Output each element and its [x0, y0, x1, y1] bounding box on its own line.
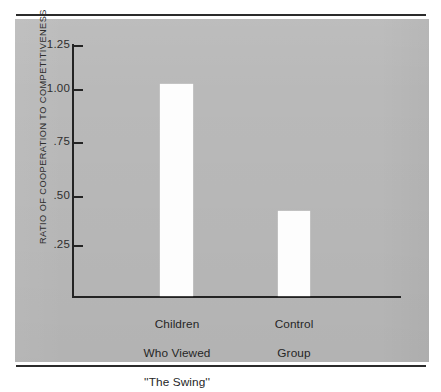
- y-tick-mark: [74, 142, 83, 144]
- x-category-line-1: Control: [237, 317, 351, 332]
- plot-area: RATIO OF COOPERATION TO COMPETITIVENESS …: [15, 19, 429, 362]
- y-tick-label: .50: [53, 189, 70, 201]
- y-tick-label: .25: [53, 238, 70, 250]
- x-axis-line: [72, 296, 401, 298]
- y-tick-1.00: 1.00: [74, 89, 83, 91]
- x-category-line-1: Children: [116, 317, 238, 332]
- y-tick-mark: [74, 89, 83, 91]
- y-tick-0.50: .50: [74, 196, 83, 198]
- bar-control-group: [278, 211, 310, 296]
- chart-plate: RATIO OF COOPERATION TO COMPETITIVENESS …: [15, 19, 429, 362]
- y-axis-title: RATIO OF COOPERATION TO COMPETITIVENESS: [38, 44, 48, 244]
- y-tick-0.75: .75: [74, 142, 83, 144]
- y-tick-label: .75: [53, 135, 70, 147]
- x-category-line-2: Who Viewed: [116, 346, 238, 361]
- x-category-label-control: Control Group: [237, 302, 351, 375]
- x-category-line-3: ''The Swing'': [116, 375, 238, 390]
- y-tick-mark: [74, 196, 83, 198]
- y-tick-mark: [74, 245, 83, 247]
- top-divider-rule: [16, 14, 426, 16]
- bottom-divider-rule: [16, 365, 426, 367]
- bar-children-who-viewed-the-swing: [160, 84, 193, 296]
- y-tick-label: 1.00: [47, 82, 70, 94]
- y-tick-label: 1.25: [47, 38, 70, 50]
- x-category-label-children: Children Who Viewed ''The Swing'': [116, 302, 238, 392]
- y-tick-0.25: .25: [74, 245, 83, 247]
- y-tick-1.25: 1.25: [74, 45, 83, 47]
- x-category-line-2: Group: [237, 346, 351, 361]
- y-tick-mark: [74, 45, 83, 47]
- y-axis-line: [72, 44, 74, 298]
